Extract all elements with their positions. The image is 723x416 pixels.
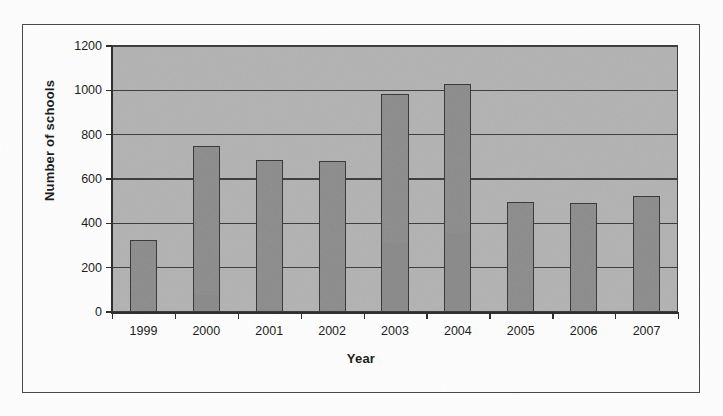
bar-grain-texture	[381, 94, 408, 243]
x-axis-tick-label: 1999	[130, 324, 158, 338]
bar-2005	[507, 202, 534, 312]
y-axis-tick	[106, 134, 112, 135]
y-axis-tick	[106, 90, 112, 91]
y-axis-tick-label: 1000	[74, 83, 102, 97]
x-axis-tick	[301, 312, 302, 319]
y-axis-tick-label: 0	[95, 305, 102, 319]
bar-grain-texture	[444, 84, 471, 233]
x-axis-tick-label: 2005	[507, 324, 535, 338]
x-axis-tick-label: 2003	[381, 324, 409, 338]
x-axis-tick	[175, 312, 176, 319]
x-axis-tick-label: 2007	[633, 324, 661, 338]
bar-grain-texture	[507, 202, 534, 312]
y-axis-tick	[106, 223, 112, 224]
x-axis-tick-label: 2001	[255, 324, 283, 338]
bar-2001	[256, 160, 283, 312]
bar-2004	[444, 84, 471, 312]
x-axis-line	[111, 312, 679, 314]
y-axis-tick-label: 400	[81, 216, 102, 230]
x-axis-tick	[678, 312, 679, 319]
y-axis-tick-label: 200	[81, 261, 102, 275]
y-axis-tick-label: 600	[81, 172, 102, 186]
bar-2002	[319, 161, 346, 312]
bar-grain-texture	[633, 196, 660, 312]
x-axis-tick	[112, 312, 113, 319]
y-axis-tick	[106, 45, 112, 46]
bar-2007	[633, 196, 660, 312]
x-axis-tick	[238, 312, 239, 319]
x-axis-tick-label: 2006	[570, 324, 598, 338]
y-axis-tick	[106, 267, 112, 268]
x-axis-tick-label: 2000	[192, 324, 220, 338]
bar-grain-texture	[570, 203, 597, 312]
plot-wrapper: 020040060080010001200 199920002001200220…	[112, 46, 678, 312]
scanned-page: Number of schools Year	[0, 0, 723, 416]
y-axis-tick-label: 1200	[74, 39, 102, 53]
x-axis-tick	[364, 312, 365, 319]
x-axis-tick-label: 2002	[318, 324, 346, 338]
x-axis-tick	[489, 312, 490, 319]
x-axis-title: Year	[23, 351, 699, 366]
y-axis-tick	[106, 178, 112, 179]
x-axis-tick	[426, 312, 427, 319]
x-axis-tick	[552, 312, 553, 319]
bar-2003	[381, 94, 408, 312]
bar-2000	[193, 146, 220, 312]
gridline	[112, 90, 678, 91]
gridline	[112, 45, 678, 46]
y-axis-title: Number of schools	[42, 51, 57, 231]
bar-grain-texture	[193, 146, 220, 295]
bar-grain-texture	[319, 161, 346, 310]
x-axis-tick-label: 2004	[444, 324, 472, 338]
bar-1999	[130, 240, 157, 312]
y-axis-tick-label: 800	[81, 128, 102, 142]
bar-grain-texture	[130, 240, 157, 312]
x-axis-tick	[615, 312, 616, 319]
bar-2006	[570, 203, 597, 312]
bar-grain-texture	[256, 160, 283, 309]
chart-figure-frame: Number of schools Year	[22, 24, 700, 393]
